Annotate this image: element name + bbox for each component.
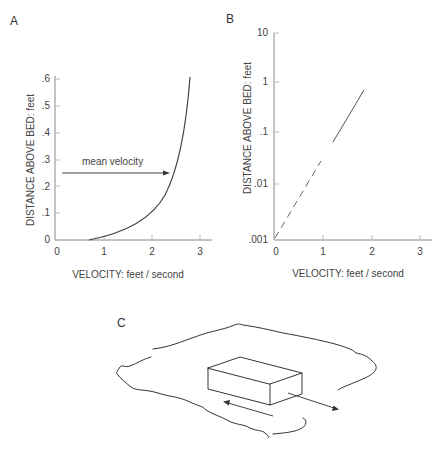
arrowhead-icon xyxy=(332,406,339,412)
bed-surface-outline xyxy=(117,324,376,438)
chart-a-y-axis-title: DISTANCE ABOVE BED: feet xyxy=(25,94,36,226)
mean-velocity-annotation: mean velocity xyxy=(62,156,170,176)
chart-a-x-ticks xyxy=(104,235,200,240)
block xyxy=(208,357,302,405)
chart-b-x-axis-title: VELOCITY: feet / second xyxy=(292,268,404,279)
figure: A 0 .1 .2 .3 .4 .5 .6 0 xyxy=(0,0,443,449)
chart-a-y-ticks xyxy=(55,79,60,213)
svg-text:.001: .001 xyxy=(249,234,269,245)
chart-a-x-tick-labels: 0 1 2 3 xyxy=(54,246,203,257)
svg-text:0: 0 xyxy=(273,246,279,257)
svg-text:1: 1 xyxy=(101,246,107,257)
svg-text:3: 3 xyxy=(417,246,423,257)
chart-a-y-tick-labels: 0 .1 .2 .3 .4 .5 .6 xyxy=(42,73,51,245)
svg-text:.4: .4 xyxy=(42,127,51,138)
svg-text:.2: .2 xyxy=(42,181,51,192)
svg-text:.1: .1 xyxy=(260,126,269,137)
svg-text:1: 1 xyxy=(320,246,326,257)
svg-text:3: 3 xyxy=(197,246,203,257)
svg-text:.01: .01 xyxy=(254,178,268,189)
svg-text:2: 2 xyxy=(369,246,375,257)
svg-text:1: 1 xyxy=(262,76,268,87)
svg-text:.6: .6 xyxy=(42,73,51,84)
panel-a-label: A xyxy=(10,14,18,28)
svg-text:0: 0 xyxy=(44,234,50,245)
svg-text:.5: .5 xyxy=(42,100,51,111)
svg-text:.3: .3 xyxy=(42,154,51,165)
panel-a: A 0 .1 .2 .3 .4 .5 .6 0 xyxy=(10,14,212,280)
chart-b-dashed-line xyxy=(275,161,321,238)
left-arrow xyxy=(223,400,273,416)
panel-b-label: B xyxy=(226,12,234,26)
right-arrow xyxy=(288,393,339,411)
svg-text:10: 10 xyxy=(257,27,269,38)
svg-text:0: 0 xyxy=(54,246,60,257)
chart-a-x-axis-title: VELOCITY: feet / second xyxy=(72,269,184,280)
svg-text:.1: .1 xyxy=(42,207,51,218)
chart-b-y-axis-title: DISTANCE ABOVE BED: feet xyxy=(242,62,253,194)
chart-b-solid-line xyxy=(333,90,364,142)
panel-c-label: C xyxy=(117,316,126,330)
panel-c: C xyxy=(117,316,376,438)
chart-b-x-ticks xyxy=(323,235,420,240)
svg-text:2: 2 xyxy=(149,246,155,257)
chart-b-x-tick-labels: 0 1 2 3 xyxy=(273,246,423,257)
chart-b-y-ticks xyxy=(274,33,279,184)
arrowhead-icon xyxy=(163,171,170,176)
arrowhead-icon xyxy=(223,400,230,406)
mean-velocity-label: mean velocity xyxy=(82,156,143,167)
panel-b: B .001 .01 .1 1 10 0 1 2 3 VELOCITY: f xyxy=(226,12,432,279)
